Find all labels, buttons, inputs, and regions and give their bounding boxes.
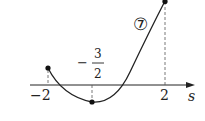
curve-label: ⑦ — [133, 14, 148, 34]
fraction-denominator: 2 — [94, 67, 102, 81]
tick-label-2: 2 — [160, 87, 169, 103]
left-endpoint-dot — [45, 65, 50, 70]
parabola-diagram: −2 2 s − 3 2 ⑦ — [0, 0, 205, 121]
tick-label-minus-2: −2 — [30, 87, 51, 103]
fraction-numerator: 3 — [94, 47, 102, 61]
axis-variable-label: s — [188, 88, 195, 104]
vertex-dot — [89, 99, 94, 104]
fraction-minus-sign: − — [77, 55, 88, 70]
